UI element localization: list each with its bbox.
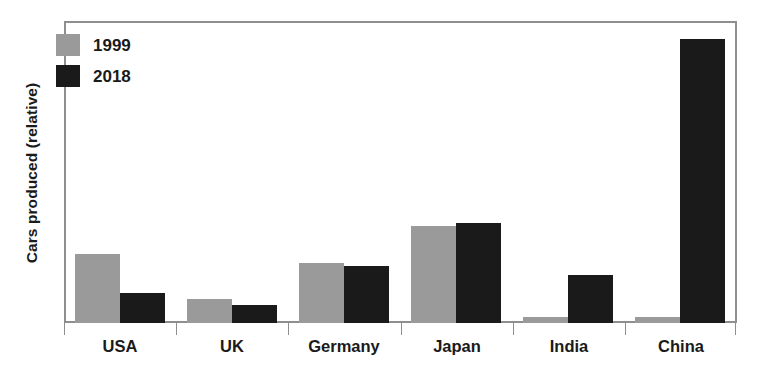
y-axis-title: Cars produced (relative) xyxy=(0,0,64,345)
y-axis-title-text: Cars produced (relative) xyxy=(23,82,41,263)
x-tick xyxy=(513,323,514,335)
legend-swatch-1999-icon xyxy=(56,34,80,56)
chart-legend: 1999 2018 xyxy=(56,34,131,87)
bar-japan-1999[interactable] xyxy=(411,226,456,323)
bar-chart-figure: Cars produced (relative) xyxy=(0,0,769,377)
x-axis: USAUKGermanyJapanIndiaChina xyxy=(64,323,737,377)
bar-china-2018[interactable] xyxy=(680,39,725,323)
bar-group-china xyxy=(624,21,736,323)
legend-item-2018[interactable]: 2018 xyxy=(56,65,131,87)
bar-group-india xyxy=(512,21,624,323)
bar-usa-1999[interactable] xyxy=(75,254,120,323)
x-axis-label-usa: USA xyxy=(103,337,138,356)
bar-uk-1999[interactable] xyxy=(187,299,232,323)
bar-india-2018[interactable] xyxy=(568,275,613,323)
bar-usa-2018[interactable] xyxy=(120,293,165,323)
x-tick xyxy=(735,323,736,335)
x-axis-label-japan: Japan xyxy=(433,337,481,356)
legend-swatch-2018-icon xyxy=(56,65,80,87)
legend-label-2018: 2018 xyxy=(93,68,131,85)
bar-germany-1999[interactable] xyxy=(299,263,344,323)
bar-uk-2018[interactable] xyxy=(232,305,277,323)
x-tick xyxy=(176,323,177,335)
x-tick xyxy=(64,323,65,335)
bar-japan-2018[interactable] xyxy=(456,223,501,323)
x-tick xyxy=(288,323,289,335)
bar-group-uk xyxy=(176,21,288,323)
x-axis-label-germany: Germany xyxy=(308,337,380,356)
x-tick xyxy=(625,323,626,335)
x-tick xyxy=(401,323,402,335)
bar-group-japan xyxy=(400,21,512,323)
legend-item-1999[interactable]: 1999 xyxy=(56,34,131,56)
x-axis-label-china: China xyxy=(658,337,704,356)
x-axis-label-uk: UK xyxy=(220,337,244,356)
bar-germany-2018[interactable] xyxy=(344,266,389,323)
x-axis-label-india: India xyxy=(550,337,589,356)
bar-group-germany xyxy=(288,21,400,323)
legend-label-1999: 1999 xyxy=(93,37,131,54)
plot-area xyxy=(64,21,737,323)
